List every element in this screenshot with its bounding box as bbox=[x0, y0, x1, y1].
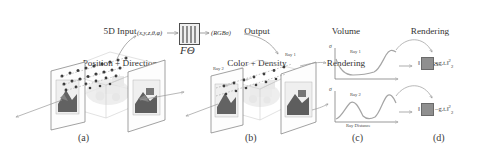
plot1-title: Ray 1 bbox=[350, 49, 361, 54]
panel-label-b: (b) bbox=[245, 132, 257, 143]
loss-subscript-2: 2 bbox=[451, 110, 453, 115]
mlp-layer-bar bbox=[182, 26, 184, 43]
loss-expression-2: ‖–g.t.‖22 bbox=[418, 103, 453, 116]
plot2-title: Ray 2 bbox=[350, 92, 361, 97]
input-vector-label: (x,y,z,θ,φ) bbox=[137, 29, 162, 36]
ground-truth-label-2: g.t. bbox=[438, 105, 446, 112]
mlp-layer-bar bbox=[190, 26, 192, 43]
panel-label-a: (a) bbox=[78, 132, 89, 143]
plot-ray2 bbox=[335, 91, 398, 122]
panel-b-scene bbox=[186, 60, 328, 134]
output-vector-label: (RGBσ) bbox=[211, 29, 231, 36]
mlp-layer-bar bbox=[194, 26, 196, 43]
plot2-sigma-curve bbox=[336, 95, 396, 119]
norm-open-bracket: ‖ bbox=[418, 105, 420, 113]
mlp-layer-bar bbox=[186, 26, 188, 43]
plot2-y-axis-label: σ bbox=[329, 86, 332, 92]
mlp-network-block bbox=[179, 23, 200, 45]
loss-exponent-1: 2 bbox=[449, 58, 451, 63]
network-label: FΘ bbox=[180, 44, 195, 56]
panel-label-c: (c) bbox=[352, 132, 363, 143]
loss-arc-1 bbox=[396, 40, 432, 52]
ray2-label-scene: Ray 2 bbox=[213, 66, 224, 71]
image-plane-a-left bbox=[51, 62, 85, 130]
plot1-y-axis-label: σ bbox=[329, 43, 332, 49]
ground-truth-label-1: g.t. bbox=[438, 59, 446, 66]
plot1-sigma-curve bbox=[336, 50, 396, 75]
panel-label-d: (d) bbox=[433, 132, 445, 143]
loss-exponent-2: 2 bbox=[449, 104, 451, 109]
image-plane-b-left bbox=[211, 68, 243, 133]
plot-ray1 bbox=[335, 48, 398, 79]
arrow-output-to-scene-b bbox=[244, 34, 278, 54]
rendered-patch-2 bbox=[421, 103, 434, 116]
loss-subscript-1: 2 bbox=[451, 64, 453, 69]
image-plane-b-right bbox=[281, 62, 316, 134]
image-plane-a-right bbox=[128, 60, 165, 132]
figure-vector-layer bbox=[0, 0, 484, 153]
rendered-patch-1 bbox=[421, 57, 434, 70]
scene-object-a bbox=[86, 76, 130, 105]
ray1-label-scene: Ray 1 bbox=[285, 52, 296, 57]
sample-to-input-arrow bbox=[117, 36, 136, 59]
nerf-pipeline-figure: 5D Input Position + Direction Output Col… bbox=[0, 0, 484, 153]
plot2-x-axis-label: Ray Distance bbox=[346, 123, 371, 128]
scene-object-b bbox=[240, 80, 280, 107]
panel-a-scene bbox=[16, 36, 184, 132]
loss-expression-1: ‖–g.t.‖22 bbox=[418, 57, 453, 70]
loss-arc-2 bbox=[396, 86, 432, 98]
norm-open-bracket: ‖ bbox=[418, 59, 420, 67]
